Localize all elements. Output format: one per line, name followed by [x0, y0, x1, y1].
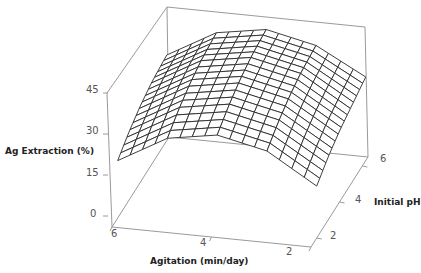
z-tick-15: 15: [86, 167, 99, 178]
z-tick-45: 45: [86, 84, 99, 95]
y-tick-2: 2: [330, 230, 336, 241]
x-tick-6: 6: [111, 228, 117, 239]
x-tick-4: 4: [200, 237, 206, 248]
z-tick-30: 30: [86, 125, 99, 136]
x-axis-label: Agitation (min/day): [150, 256, 248, 266]
y-tick-4: 4: [355, 194, 361, 205]
x-tick-2: 2: [286, 246, 292, 257]
z-tick-0: 0: [90, 208, 96, 219]
surface-mesh: [118, 30, 366, 187]
z-axis-label: Ag Extraction (%): [5, 146, 94, 156]
y-axis-label: Initial pH: [374, 197, 421, 207]
y-tick-6: 6: [380, 153, 386, 164]
